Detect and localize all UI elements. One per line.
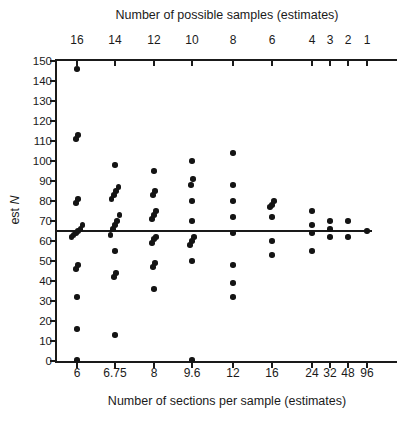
data-point — [309, 222, 315, 228]
top-axis-tick — [76, 61, 78, 66]
data-point — [269, 252, 275, 258]
bottom-tick-label: 6 — [74, 366, 81, 380]
data-point — [309, 230, 315, 236]
data-point — [230, 182, 236, 188]
y-tick-label: 60 — [20, 235, 52, 248]
data-point — [230, 294, 236, 300]
data-point — [230, 230, 236, 236]
data-point — [309, 208, 315, 214]
data-point — [74, 66, 80, 72]
top-axis-tick — [191, 61, 193, 66]
data-point — [75, 262, 81, 268]
data-point — [153, 208, 159, 214]
y-tick-label: 50 — [20, 255, 52, 268]
data-point — [152, 188, 158, 194]
data-point — [151, 286, 157, 292]
data-point — [80, 222, 86, 228]
top-axis-tick — [347, 61, 349, 66]
top-axis-tick — [329, 61, 331, 66]
y-tick-label: 30 — [20, 295, 52, 308]
data-point — [151, 168, 157, 174]
data-point — [74, 326, 80, 332]
data-point — [153, 234, 159, 240]
top-tick-label: 12 — [147, 33, 160, 47]
y-tick-label: 70 — [20, 215, 52, 228]
reference-line — [57, 230, 372, 232]
top-axis-tick — [366, 61, 368, 66]
y-tick-label: 0 — [20, 355, 52, 368]
y-tick-label: 130 — [20, 95, 52, 108]
data-point — [230, 198, 236, 204]
data-point — [75, 196, 81, 202]
data-point — [269, 214, 275, 220]
bottom-tick-label: 96 — [360, 366, 373, 380]
top-axis-tick — [114, 61, 116, 66]
data-point — [189, 218, 195, 224]
data-point — [189, 158, 195, 164]
data-point — [116, 184, 122, 190]
data-point — [230, 214, 236, 220]
data-point — [112, 332, 118, 338]
y-tick-label: 150 — [20, 55, 52, 68]
top-tick-label: 8 — [230, 33, 237, 47]
y-tick-label: 120 — [20, 115, 52, 128]
data-point — [327, 234, 333, 240]
data-point — [189, 258, 195, 264]
bottom-tick-label: 24 — [305, 366, 318, 380]
data-point — [230, 262, 236, 268]
data-point — [364, 228, 370, 234]
data-point — [327, 226, 333, 232]
y-tick-label: 80 — [20, 195, 52, 208]
data-point — [152, 260, 158, 266]
scatter-plot-figure: Number of possible samples (estimates) e… — [0, 0, 413, 422]
top-axis-tick — [271, 61, 273, 66]
bottom-tick-label: 6.75 — [103, 366, 126, 380]
bottom-tick-label: 8 — [151, 366, 158, 380]
top-tick-label: 3 — [327, 33, 334, 47]
y-tick-label: 40 — [20, 275, 52, 288]
data-point — [189, 357, 195, 363]
top-axis-title: Number of possible samples (estimates) — [57, 8, 397, 22]
data-point — [230, 280, 236, 286]
data-point — [190, 176, 196, 182]
top-axis-tick — [311, 61, 313, 66]
data-point — [189, 198, 195, 204]
top-tick-label: 6 — [269, 33, 276, 47]
data-point — [188, 182, 194, 188]
data-point — [108, 232, 114, 238]
bottom-tick-label: 48 — [341, 366, 354, 380]
data-point — [112, 248, 118, 254]
y-tick-label: 20 — [20, 315, 52, 328]
bottom-axis-title: Number of sections per sample (estimates… — [57, 394, 397, 408]
y-tick-label: 10 — [20, 335, 52, 348]
data-point — [113, 270, 119, 276]
data-point — [191, 234, 197, 240]
data-point — [74, 357, 80, 363]
bottom-tick-label: 32 — [323, 366, 336, 380]
data-point — [74, 294, 80, 300]
top-tick-label: 10 — [185, 33, 198, 47]
top-axis-tick — [232, 61, 234, 66]
top-tick-label: 4 — [309, 33, 316, 47]
bottom-tick-label: 9.6 — [184, 366, 201, 380]
data-point — [269, 238, 275, 244]
data-point — [112, 162, 118, 168]
top-tick-label: 16 — [70, 33, 83, 47]
data-point — [75, 132, 81, 138]
bottom-tick-label: 16 — [265, 366, 278, 380]
top-tick-label: 1 — [364, 33, 371, 47]
plot-area — [55, 59, 397, 363]
data-point — [327, 218, 333, 224]
top-axis-tick — [153, 61, 155, 66]
data-point — [117, 212, 123, 218]
data-point — [230, 150, 236, 156]
y-tick-label: 140 — [20, 75, 52, 88]
data-point — [271, 198, 277, 204]
y-tick-label: 100 — [20, 155, 52, 168]
bottom-tick-label: 12 — [226, 366, 239, 380]
y-tick-label: 110 — [20, 135, 52, 148]
top-tick-label: 14 — [108, 33, 121, 47]
data-point — [114, 218, 120, 224]
top-tick-label: 2 — [345, 33, 352, 47]
y-tick-label: 90 — [20, 175, 52, 188]
